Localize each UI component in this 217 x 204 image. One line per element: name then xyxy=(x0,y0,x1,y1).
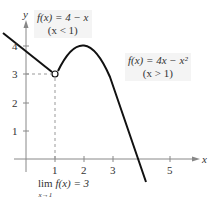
x-axis-label: x xyxy=(202,154,207,165)
y-axis-label: y xyxy=(23,9,28,20)
x-tick-label-2: 2 xyxy=(81,165,87,176)
x-tick-label-1: 1 xyxy=(52,165,58,176)
limit-word: lim xyxy=(38,177,53,189)
y-tick-label-2: 2 xyxy=(12,98,18,109)
right-function-label: f(x) = 4x − x² (x > 1) xyxy=(125,53,191,81)
right-function-formula: f(x) = 4x − x² xyxy=(128,54,188,67)
left-function-domain: (x < 1) xyxy=(37,24,89,37)
curve-left-linear xyxy=(3,33,52,72)
left-function-formula: f(x) = 4 − x xyxy=(37,11,89,24)
open-circle-point xyxy=(52,71,58,77)
chart-canvas xyxy=(0,0,217,204)
y-axis-arrow-icon xyxy=(24,20,29,28)
x-tick-label-5: 5 xyxy=(167,165,173,176)
limit-subscript: x→1 xyxy=(39,191,53,199)
left-function-label: f(x) = 4 − x (x < 1) xyxy=(34,10,92,38)
y-tick-label-3: 3 xyxy=(12,69,18,80)
limit-expression: f(x) = 3 xyxy=(55,177,89,189)
right-function-domain: (x > 1) xyxy=(128,67,188,80)
y-tick-label-4: 4 xyxy=(12,41,18,52)
limit-annotation: lim x→1 f(x) = 3 xyxy=(38,178,89,200)
x-tick-label-3: 3 xyxy=(110,165,116,176)
x-axis-arrow-icon xyxy=(192,157,200,162)
y-tick-label-1: 1 xyxy=(12,126,18,137)
